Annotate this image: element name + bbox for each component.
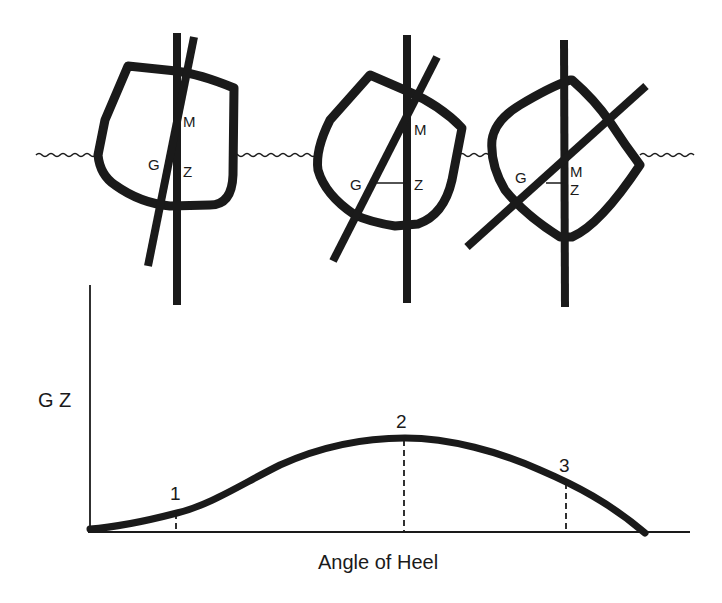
hull-1: M G Z	[98, 33, 234, 305]
y-axis-label: G Z	[38, 389, 71, 411]
point-label-2: 2	[396, 411, 407, 432]
label-Z-2: Z	[414, 176, 423, 193]
label-M-3: M	[570, 163, 583, 180]
label-G-3: G	[515, 169, 527, 186]
x-axis-label: Angle of Heel	[318, 551, 438, 573]
point-label-3: 3	[559, 455, 570, 476]
label-Z-3: Z	[570, 181, 579, 198]
hull-2: M G Z	[318, 35, 463, 303]
label-G-1: G	[148, 156, 160, 173]
point-label-1: 1	[170, 483, 181, 504]
label-G-2: G	[350, 176, 362, 193]
gz-stability-diagram: M G Z M G Z M G Z 1 2 3 G Z Angle o	[0, 0, 722, 603]
label-M-2: M	[414, 121, 427, 138]
waterline	[36, 154, 694, 157]
label-Z-1: Z	[183, 163, 192, 180]
label-M-1: M	[183, 113, 196, 130]
hull-3: M G Z	[467, 40, 646, 307]
